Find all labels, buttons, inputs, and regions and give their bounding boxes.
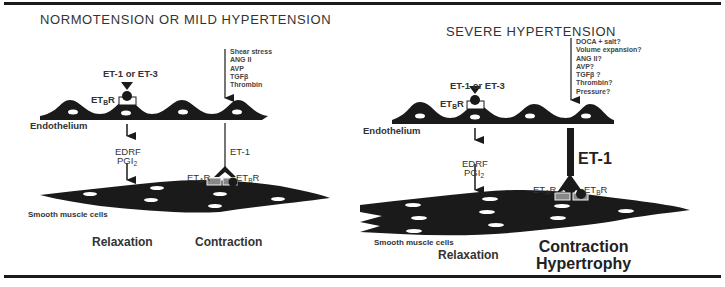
right-stimuli-list: DOCA + salt?Volume expansion?ANG II?AVP?… [576, 38, 642, 96]
left-et1-label: ET-1 [230, 146, 250, 157]
left-smooth-muscle-label: Smooth muscle cells [28, 210, 108, 219]
right-pgi2-label: PGI2 [464, 167, 484, 179]
right-panel-title: SEVERE HYPERTENSION [446, 24, 616, 39]
right-endothelium-label: Endothelium [363, 125, 421, 136]
left-smooth-muscle [40, 180, 330, 213]
left-panel-title: NORMOTENSION OR MILD HYPERTENSION [40, 12, 331, 27]
right-relaxation-label: Relaxation [438, 248, 499, 262]
left-relaxation-label: Relaxation [92, 235, 153, 249]
left-contraction-label: Contraction [195, 235, 262, 249]
right-smooth-muscle [360, 190, 690, 235]
left-ligand-label: ET-1 or ET-3 [103, 68, 158, 79]
right-endothelium [392, 102, 614, 124]
left-eta-receptor-label: ETAR [187, 172, 210, 184]
right-etb-receptor2-label: ETBR [584, 184, 607, 196]
right-etb-receptor-label: ETBR [440, 98, 464, 110]
left-stimuli-list: Shear stressANG IIAVPTGFβThrombin [230, 48, 272, 89]
left-etb-receptor2-label: ETBR [236, 172, 259, 184]
right-et1-label: ET-1 [578, 150, 612, 168]
left-endothelium-label: Endothelium [30, 120, 88, 131]
right-contraction-hypertrophy-label: ContractionHypertrophy [536, 238, 631, 272]
right-ligand-label: ET-1 or ET-3 [450, 80, 505, 91]
right-eta-receptor-label: ETAR [533, 184, 556, 196]
left-pgi2-label: PGI2 [117, 155, 137, 167]
right-smooth-muscle-label: Smooth muscle cells [374, 238, 454, 247]
left-etb-receptor-label: ETBR [91, 94, 115, 106]
